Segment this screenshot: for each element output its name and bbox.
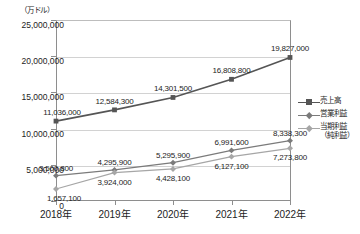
- line-chart: （万ドル） 25,000,000 20,000,000 15,000,000 1…: [0, 0, 360, 234]
- legend-swatch-diamond-icon: [298, 111, 320, 120]
- x-tick-label-2018: 2018年: [40, 206, 72, 221]
- x-tick-mark-2022: [290, 201, 291, 205]
- point-label: 6,127,100: [215, 161, 249, 170]
- point-label: 19,827,000: [271, 44, 309, 53]
- legend-label-net-income-line2: （純利益）: [320, 132, 354, 141]
- legend-swatch-square-icon: [298, 98, 320, 107]
- gridline-10m: [57, 130, 290, 131]
- point-label: 3,500,800: [39, 163, 73, 172]
- point-label: 5,295,900: [156, 150, 190, 159]
- legend-item-sales[interactable]: 売上高: [298, 97, 360, 107]
- legend-label-net-income: 当期利益 （純利益）: [320, 123, 354, 140]
- point-label: 3,924,000: [98, 177, 132, 186]
- x-tick-mark-2021: [232, 201, 233, 205]
- legend-label-sales: 売上高: [320, 97, 340, 106]
- gridline-20m: [57, 57, 290, 58]
- point-label: 4,295,900: [98, 157, 132, 166]
- x-tick-label-2022: 2022年: [274, 206, 306, 221]
- legend-item-net-income[interactable]: 当期利益 （純利益）: [298, 123, 360, 140]
- point-label: 1,657,100: [47, 194, 81, 203]
- legend-swatch-diamond-light-icon: [298, 124, 320, 133]
- x-tick-mark-2019: [115, 201, 116, 205]
- legend-item-operating-profit[interactable]: 営業利益: [298, 110, 360, 120]
- point-label: 4,428,100: [156, 173, 190, 182]
- point-label: 14,301,500: [154, 84, 192, 93]
- point-label: 12,584,300: [95, 96, 133, 105]
- point-label: 11,036,000: [43, 108, 80, 117]
- gridline-5m: [57, 166, 290, 167]
- point-label: 6,991,600: [215, 138, 249, 147]
- x-tick-label-2020: 2020年: [157, 206, 189, 221]
- x-tick-label-2021: 2021年: [215, 206, 247, 221]
- point-label: 7,273,800: [273, 153, 307, 162]
- x-tick-mark-2020: [173, 201, 174, 205]
- legend-label-operating-profit: 営業利益: [320, 110, 347, 119]
- legend: 売上高 営業利益 当期利益 （純利益）: [298, 97, 360, 143]
- x-tick-label-2019: 2019年: [98, 206, 130, 221]
- point-label: 16,808,800: [212, 66, 250, 75]
- gridline-15m: [57, 93, 290, 94]
- y-axis-unit-label: （万ドル）: [20, 4, 54, 15]
